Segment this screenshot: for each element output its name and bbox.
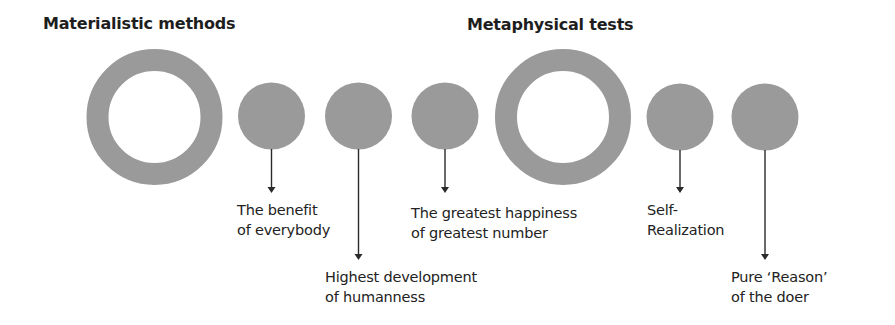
label-line: The benefit xyxy=(237,200,330,220)
node-benefit-of-everybody xyxy=(238,83,305,194)
label-benefit-of-everybody: The benefit of everybody xyxy=(237,200,330,240)
label-highest-development: Highest development of humanness xyxy=(325,267,477,307)
arrowhead-icon xyxy=(441,187,449,193)
ring-metaphysical-tests xyxy=(506,60,620,174)
label-pure-reason: Pure ‘Reason’ of the doer xyxy=(731,267,827,307)
label-self-realization: Self- Realization xyxy=(647,200,724,240)
node-pure-reason xyxy=(732,84,799,261)
arrowhead-icon xyxy=(355,254,363,260)
label-line: Highest development xyxy=(325,267,477,287)
ring-materialistic-methods xyxy=(98,60,212,174)
label-line: of greatest number xyxy=(411,223,577,243)
label-line: Pure ‘Reason’ xyxy=(731,267,827,287)
label-line: The greatest happiness xyxy=(411,203,577,223)
node-self-realization xyxy=(647,84,714,194)
label-line: of the doer xyxy=(731,287,827,307)
label-line: Realization xyxy=(647,220,724,240)
node-highest-development xyxy=(325,83,392,261)
arrowhead-icon xyxy=(761,254,769,260)
label-line: Self- xyxy=(647,200,724,220)
label-greatest-happiness: The greatest happiness of greatest numbe… xyxy=(411,203,577,243)
label-line: of everybody xyxy=(237,220,330,240)
node-greatest-happiness xyxy=(412,83,479,194)
arrowhead-icon xyxy=(676,187,684,193)
arrowhead-icon xyxy=(268,187,276,193)
label-line: of humanness xyxy=(325,287,477,307)
